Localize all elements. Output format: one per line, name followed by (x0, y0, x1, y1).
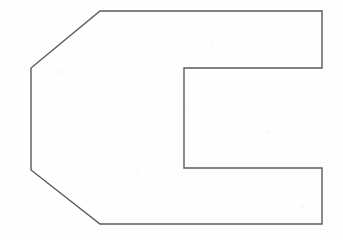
c-shape-outline-path (31, 11, 322, 224)
shape-figure: C-shaped bracket outline Single closed p… (0, 0, 343, 240)
drawing-canvas: C-shaped bracket outline Single closed p… (0, 0, 343, 240)
